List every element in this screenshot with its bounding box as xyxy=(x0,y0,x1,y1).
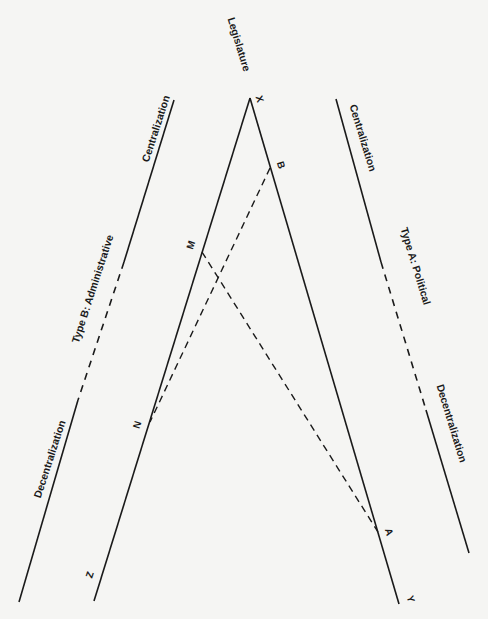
diagram-canvas xyxy=(0,0,488,619)
left-axis-line xyxy=(19,100,174,602)
connector-m-a xyxy=(202,252,378,532)
inner-v-lines xyxy=(94,98,399,604)
connector-b-n xyxy=(150,168,270,422)
right-axis-line xyxy=(336,99,469,553)
dashed-connectors xyxy=(150,168,378,532)
